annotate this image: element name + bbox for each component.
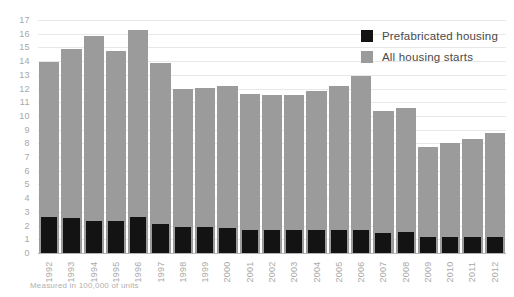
bar-prefabricated-housing[interactable] [242,230,258,253]
x-axis-tick: 2007 [373,255,393,285]
y-tick-label: 1 [25,234,30,244]
y-tick-label: 2 [25,221,30,231]
y-tick-label: 3 [25,207,30,217]
x-tick-label: 1999 [200,261,210,282]
y-tick-label: 0 [25,248,30,258]
bar-group[interactable] [217,20,237,253]
x-tick-label: 1998 [178,261,188,282]
bar-group[interactable] [106,20,126,253]
legend: Prefabricated housing All housing starts [361,30,498,63]
bar-all-housing-starts[interactable] [396,108,416,253]
x-tick-label: 2010 [445,261,455,282]
bar-prefabricated-housing[interactable] [487,237,503,253]
bar-group[interactable] [284,20,304,253]
bar-all-housing-starts[interactable] [306,91,326,253]
bar-prefabricated-housing[interactable] [86,221,102,253]
y-tick-label: 14 [19,56,30,66]
y-tick-label: 12 [19,84,30,94]
y-tick-label: 17 [19,15,30,25]
y-tick-label: 6 [25,166,30,176]
bar-prefabricated-housing[interactable] [63,218,79,253]
x-axis-tick: 2002 [262,255,282,285]
bar-prefabricated-housing[interactable] [375,233,391,253]
y-tick-label: 11 [20,97,30,107]
bar-prefabricated-housing[interactable] [420,237,436,253]
bar-group[interactable] [84,20,104,253]
y-tick-label: 13 [19,70,30,80]
bar-group[interactable] [262,20,282,253]
bar-group[interactable] [306,20,326,253]
x-tick-label: 2006 [356,261,366,282]
bar-group[interactable] [150,20,170,253]
bar-all-housing-starts[interactable] [462,139,482,253]
bar-prefabricated-housing[interactable] [197,227,213,253]
bar-all-housing-starts[interactable] [485,133,505,253]
x-axis-tick: 2010 [440,255,460,285]
x-axis-tick: 2000 [217,255,237,285]
x-axis-line [38,253,506,254]
legend-swatch-all-housing-starts [361,51,373,63]
bar-all-housing-starts[interactable] [373,111,393,253]
bar-prefabricated-housing[interactable] [130,217,146,253]
chart-footnote: Measured in 100,000 of units [30,281,139,290]
bar-prefabricated-housing[interactable] [442,237,458,253]
x-axis-tick: 2011 [462,255,482,285]
x-axis-tick: 2006 [351,255,371,285]
legend-item-prefabricated-housing: Prefabricated housing [361,30,498,42]
bar-prefabricated-housing[interactable] [286,230,302,253]
bar-prefabricated-housing[interactable] [108,221,124,253]
x-tick-label: 1992 [44,261,54,282]
x-tick-label: 2001 [245,261,255,282]
x-tick-label: 2012 [490,261,500,282]
y-tick-label: 4 [25,193,30,203]
bar-group[interactable] [240,20,260,253]
bar-group[interactable] [61,20,81,253]
bar-group[interactable] [39,20,59,253]
bar-prefabricated-housing[interactable] [219,228,235,253]
x-tick-label: 2005 [334,261,344,282]
y-tick-label: 5 [25,179,30,189]
y-axis: 01234567891011121314151617 [0,20,34,253]
bar-prefabricated-housing[interactable] [152,224,168,253]
bar-group[interactable] [128,20,148,253]
legend-item-all-housing-starts: All housing starts [361,51,498,63]
bar-prefabricated-housing[interactable] [41,217,57,253]
bar-prefabricated-housing[interactable] [464,237,480,253]
x-tick-label: 1995 [111,261,121,282]
y-tick-label: 16 [19,29,30,39]
x-tick-label: 2009 [423,261,433,282]
x-axis-tick: 1999 [195,255,215,285]
y-tick-label: 15 [19,42,30,52]
x-tick-label: 2003 [289,261,299,282]
x-tick-label: 2004 [312,261,322,282]
x-tick-label: 2002 [267,261,277,282]
bar-prefabricated-housing[interactable] [175,227,191,253]
bar-all-housing-starts[interactable] [329,86,349,253]
bar-prefabricated-housing[interactable] [264,230,280,253]
bar-prefabricated-housing[interactable] [308,230,324,253]
bar-prefabricated-housing[interactable] [398,232,414,253]
bar-prefabricated-housing[interactable] [353,230,369,253]
y-tick-label: 8 [25,138,30,148]
legend-swatch-prefabricated-housing [361,30,373,42]
bar-group[interactable] [173,20,193,253]
bar-group[interactable] [329,20,349,253]
bar-group[interactable] [195,20,215,253]
legend-label-prefabricated-housing: Prefabricated housing [382,30,498,42]
x-axis-tick: 2012 [485,255,505,285]
x-axis-tick: 2001 [240,255,260,285]
x-tick-label: 1996 [133,261,143,282]
bar-prefabricated-housing[interactable] [331,230,347,253]
x-tick-label: 2000 [222,261,232,282]
x-axis-tick: 1998 [173,255,193,285]
y-tick-label: 10 [19,111,30,121]
legend-label-all-housing-starts: All housing starts [382,51,473,63]
x-tick-label: 2008 [401,261,411,282]
x-tick-label: 2011 [467,262,477,283]
y-tick-label: 9 [25,125,30,135]
x-axis-tick: 2004 [306,255,326,285]
bar-all-housing-starts[interactable] [351,76,371,253]
x-axis-tick: 2008 [396,255,416,285]
x-axis-tick: 2003 [284,255,304,285]
x-axis-tick: 1997 [150,255,170,285]
